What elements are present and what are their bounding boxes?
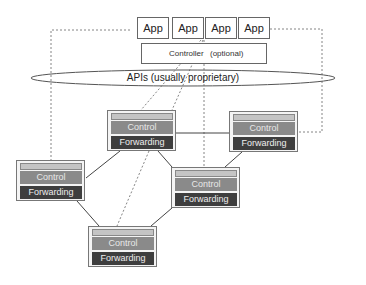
app-box-1[interactable]: App (137, 17, 169, 39)
control-plane: Control (175, 178, 237, 191)
switch-bottom[interactable]: Control Forwarding (88, 226, 157, 267)
switch-left[interactable]: Control Forwarding (16, 160, 85, 201)
control-plane: Control (92, 237, 154, 250)
controller-label: Controller (169, 49, 204, 58)
api-label: APIs (usually proprietary) (0, 72, 366, 83)
app-box-3[interactable]: App (205, 17, 237, 39)
app-box-4[interactable]: App (238, 17, 270, 39)
switch-right[interactable]: Control Forwarding (229, 111, 298, 152)
switch-top-center[interactable]: Control Forwarding (107, 110, 176, 151)
switch-header-bar (92, 229, 154, 236)
control-plane: Control (233, 122, 295, 135)
switch-header-bar (20, 163, 82, 170)
forwarding-plane: Forwarding (20, 186, 82, 199)
controller-optional-note: (optional) (210, 49, 243, 58)
switch-header-bar (233, 114, 295, 121)
forwarding-plane: Forwarding (111, 136, 173, 149)
forwarding-plane: Forwarding (175, 193, 237, 206)
control-plane: Control (111, 121, 173, 134)
switch-header-bar (111, 113, 173, 120)
switch-header-bar (175, 170, 237, 177)
forwarding-plane: Forwarding (233, 137, 295, 150)
switch-mid-right[interactable]: Control Forwarding (171, 167, 240, 208)
forwarding-plane: Forwarding (92, 252, 154, 265)
controller-box[interactable]: Controller (optional) (141, 43, 267, 64)
control-plane: Control (20, 171, 82, 184)
app-box-2[interactable]: App (172, 17, 204, 39)
